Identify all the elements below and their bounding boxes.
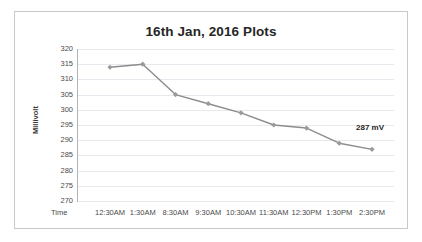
y-tick-label: 285 xyxy=(49,152,73,160)
data-point-marker xyxy=(304,125,309,130)
data-annotation-287mv: 287 mV xyxy=(356,123,384,132)
chart-title: 16th Jan, 2016 Plots xyxy=(15,24,407,39)
y-tick-label: 315 xyxy=(49,60,73,68)
x-tick-label: 12:30PM xyxy=(291,208,321,217)
y-tick-label: 300 xyxy=(49,106,73,114)
y-tick-label: 305 xyxy=(49,91,73,99)
x-tick-label: 12:30AM xyxy=(95,208,125,217)
y-tick-label: 290 xyxy=(49,136,73,144)
data-point-marker xyxy=(369,147,374,152)
y-tick-label: 310 xyxy=(49,76,73,84)
x-tick-label: 2:30PM xyxy=(359,208,385,217)
y-tick-label: 295 xyxy=(49,121,73,129)
data-point-marker xyxy=(238,110,243,115)
plot-area xyxy=(78,49,394,201)
y-axis-tick-labels: 320315310305300295290285280275270 xyxy=(45,49,73,201)
x-axis: Time 12:30AM1:30AM8:30AM9:30AM10:30AM11:… xyxy=(15,208,407,222)
data-point-marker xyxy=(107,65,112,70)
x-tick-label: 11:30AM xyxy=(259,208,288,217)
x-tick-label: 9:30AM xyxy=(195,208,221,217)
data-point-marker xyxy=(337,141,342,146)
chart-frame: 16th Jan, 2016 Plots Millivolt 320315310… xyxy=(14,11,408,229)
x-tick-label: 1:30PM xyxy=(326,208,352,217)
line-series xyxy=(78,49,394,201)
y-tick-label: 270 xyxy=(49,197,73,205)
series-line xyxy=(110,64,372,149)
y-tick-label: 320 xyxy=(49,45,73,53)
x-tick-label: 8:30AM xyxy=(163,208,189,217)
y-axis-title: Millivolt xyxy=(31,106,40,134)
gridline xyxy=(78,201,394,202)
x-tick-label: 10:30AM xyxy=(226,208,256,217)
data-point-marker xyxy=(271,122,276,127)
x-axis-title: Time xyxy=(51,208,67,217)
x-tick-label: 1:30AM xyxy=(130,208,156,217)
y-tick-label: 280 xyxy=(49,167,73,175)
data-point-marker xyxy=(206,101,211,106)
y-tick-label: 275 xyxy=(49,182,73,190)
